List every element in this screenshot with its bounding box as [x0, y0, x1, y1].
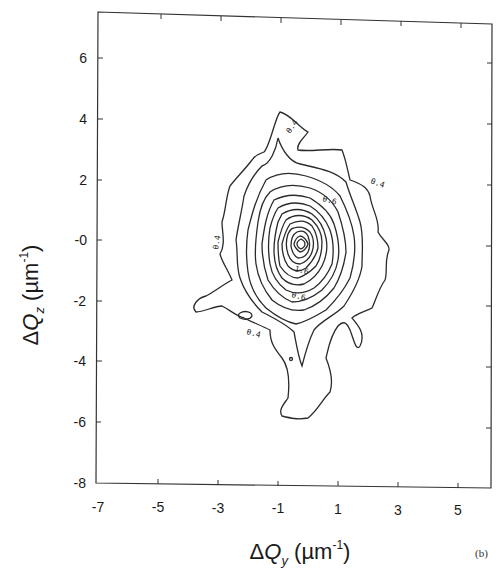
svg-text:θ.4: θ.4 — [245, 327, 261, 339]
svg-text:-0: -0 — [75, 232, 88, 248]
svg-text:2: 2 — [79, 172, 87, 188]
y-axis-title: ΔQz (µm-1) — [17, 245, 47, 346]
svg-text:-3: -3 — [212, 500, 225, 516]
contour-chart: -7 -5 -3 -1 1 3 5 6 4 2 -0 -2 -4 -6 -8 Δ… — [0, 0, 503, 579]
panel-label: (b) — [475, 547, 488, 560]
svg-text:1: 1 — [334, 501, 342, 517]
y-tick-labels: 6 4 2 -0 -2 -4 -6 -8 — [74, 50, 88, 491]
svg-text:-4: -4 — [74, 353, 87, 369]
svg-text:-6: -6 — [74, 414, 87, 430]
x-axis-title: ΔQy (µm-1) — [250, 538, 351, 568]
contour-lines — [194, 112, 389, 419]
svg-text:-2: -2 — [74, 293, 87, 309]
svg-text:4: 4 — [79, 111, 87, 127]
svg-text:-7: -7 — [92, 499, 105, 515]
svg-text:θ.6: θ.6 — [321, 194, 337, 206]
plot-frame — [96, 12, 492, 488]
svg-text:3: 3 — [394, 502, 402, 518]
svg-text:5: 5 — [454, 502, 462, 518]
svg-text:-5: -5 — [152, 499, 165, 515]
svg-text:θ.4: θ.4 — [211, 234, 222, 250]
svg-text:-1: -1 — [272, 500, 285, 516]
svg-text:-8: -8 — [74, 475, 87, 491]
svg-text:θ.4: θ.4 — [284, 118, 300, 135]
svg-text:6: 6 — [79, 50, 87, 66]
x-tick-labels: -7 -5 -3 -1 1 3 5 — [92, 499, 462, 518]
svg-text:θ.4: θ.4 — [369, 176, 386, 189]
